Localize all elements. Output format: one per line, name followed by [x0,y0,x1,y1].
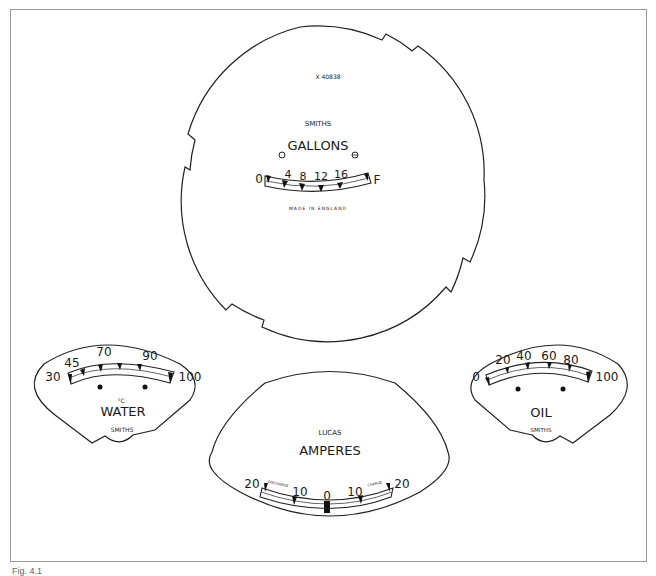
fuel-scale-16: 16 [334,168,348,181]
oil-scale-80: 80 [563,353,578,367]
fuel-scale-12: 12 [314,170,328,183]
ammeter-scale-zero: 0 [323,489,331,503]
ammeter-scale-right-20: 20 [394,477,409,491]
water-pivot-left [98,385,103,390]
oil-scale-20: 20 [495,353,510,367]
oil-maker: SMITHS [531,427,552,433]
ammeter-scale-left-10: 10 [292,485,307,499]
ammeter: LUCAS AMPERES 20 10 0 10 20 DISCHARGE CH… [209,372,449,517]
water-gauge: 30 45 70 90 100 °C WATER SMITHS [34,345,201,443]
oil-scale-100: 100 [596,370,619,384]
part-number: X 40838 [315,73,340,80]
oil-scale-40: 40 [516,349,531,363]
water-scale-30: 30 [45,370,60,384]
water-unit: °C [117,397,124,404]
fuel-scale-4: 4 [285,168,292,181]
oil-title: OIL [530,405,552,420]
ammeter-scale-left-20: 20 [244,477,259,491]
fuel-scale-full: F [374,173,381,187]
water-maker: SMITHS [111,426,134,433]
water-scale-45: 45 [64,356,79,370]
oil-gauge: 0 20 40 60 80 100 OIL SMITHS [471,345,627,443]
oil-pivot-right [561,387,566,392]
water-scale-70: 70 [96,345,111,359]
ammeter-title: AMPERES [299,443,361,458]
fuel-footer: MADE IN ENGLAND [289,206,347,211]
water-scale-90: 90 [142,349,157,363]
fuel-title: GALLONS [287,138,348,153]
ammeter-scale-right-10: 10 [347,485,362,499]
fuel-scale-8: 8 [300,170,307,183]
water-pivot-right [143,385,148,390]
oil-scale-0: 0 [472,370,480,384]
oil-pivot-left [516,387,521,392]
oil-scale-60: 60 [541,349,556,363]
water-scale-100: 100 [179,370,202,384]
figure-caption: Fig. 4.1 [12,566,42,576]
ammeter-maker: LUCAS [319,429,342,437]
fuel-maker-label: SMITHS [305,120,332,128]
fuel-scale-empty: 0 [255,172,263,186]
fuel-gauge: X 40838 SMITHS GALLONS 0 4 8 12 16 F MAD… [181,26,485,342]
water-title: WATER [100,404,145,419]
